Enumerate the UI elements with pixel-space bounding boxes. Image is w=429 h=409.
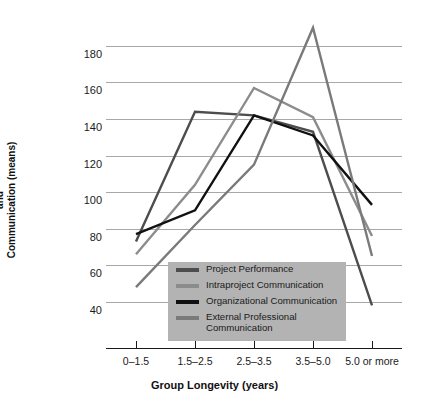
x-axis-tick-label: 2.5–3.5 [236, 355, 271, 367]
x-axis-tick [313, 341, 314, 348]
y-axis-tick-label: 140 [84, 121, 102, 133]
legend-label: Project Performance [206, 263, 293, 274]
legend-item: External Professional Communication [168, 310, 346, 338]
legend-item: Project Performance [168, 262, 346, 278]
legend-swatch [176, 268, 199, 272]
x-axis-tick-label: 0–1.5 [123, 355, 149, 367]
legend-swatch [176, 284, 199, 288]
y-axis-tick-label: 60 [90, 267, 102, 279]
y-axis-tick-labels: 180160140120100806040 [62, 24, 102, 320]
x-axis-line [106, 348, 402, 349]
x-axis-title: Group Longevity (years) [0, 379, 429, 391]
y-axis-tick-label: 100 [84, 194, 102, 206]
y-axis-tick-label: 120 [84, 158, 102, 170]
y-axis-tick-label: 160 [84, 84, 102, 96]
legend-item: Organizational Communication [168, 294, 346, 310]
y-axis-title-line-3: Communication (means) [7, 142, 19, 259]
y-axis-tick-label: 80 [90, 231, 102, 243]
line-chart-figure: Standardized Performance and Communicati… [0, 0, 429, 409]
x-axis-tick [254, 341, 255, 348]
legend-label: Intraproject Communication [206, 279, 323, 290]
x-axis-tick [136, 341, 137, 348]
series-line [136, 28, 372, 287]
x-axis-tick-label: 1.5–2.5 [177, 355, 212, 367]
legend-swatch [176, 316, 199, 320]
x-axis-tick-label: 5.0 or more [345, 355, 399, 367]
series-line [136, 88, 372, 254]
x-axis-tick-label: 3.5–5.0 [295, 355, 330, 367]
x-axis-tick [195, 341, 196, 348]
legend-swatch [176, 300, 199, 304]
x-axis-tick [372, 341, 373, 348]
legend-label: External Professional Communication [206, 311, 297, 333]
legend-label: Organizational Communication [206, 295, 337, 306]
legend-item: Intraproject Communication [168, 278, 346, 294]
series-line [136, 115, 372, 234]
y-axis-tick-label: 180 [84, 48, 102, 60]
y-axis-title: Standardized Performance and Communicati… [2, 100, 64, 300]
y-axis-tick-label: 40 [90, 304, 102, 316]
chart-legend: Project PerformanceIntraproject Communic… [168, 262, 346, 341]
